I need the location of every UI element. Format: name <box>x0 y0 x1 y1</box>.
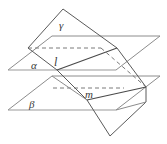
plane-gamma-lower-shape <box>57 48 146 136</box>
plane-alpha-left-edge <box>8 36 52 70</box>
hidden-dashed-edges <box>28 48 146 88</box>
plane-gamma-edge-top-right <box>63 9 117 48</box>
plane-beta-right-edge <box>116 76 160 110</box>
geometry-canvas <box>0 0 167 144</box>
gamma-lower-left-upper <box>57 70 87 100</box>
gamma-right-descending-edge <box>117 48 146 87</box>
plane-gamma-edge-top-left <box>28 9 63 48</box>
label-gamma: γ <box>59 20 63 31</box>
plane-gamma-lower-extras <box>52 76 146 110</box>
label-beta: β <box>29 99 34 110</box>
dashed-diagonal <box>101 48 146 87</box>
gamma-lower-left-edge <box>87 100 110 136</box>
plane-alpha-right-edge <box>116 36 160 70</box>
label-line-l: l <box>54 56 57 68</box>
label-alpha: α <box>31 60 37 71</box>
label-line-m: m <box>85 89 93 100</box>
plane-gamma-edge-line-l <box>57 48 117 70</box>
geometry-figure: γ α l β m <box>0 0 167 144</box>
plane-gamma-shape <box>28 9 117 70</box>
